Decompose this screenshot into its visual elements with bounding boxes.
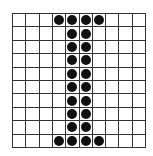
grid-cell [80,14,93,27]
grid-cell [119,27,132,40]
grid-cell [53,81,66,94]
grid-cell [53,135,66,148]
dot-grid [12,13,146,148]
grid-cell [119,121,132,134]
filled-dot [81,29,91,39]
grid-cell [80,81,93,94]
grid-cell [133,94,146,107]
grid-cell [80,108,93,121]
grid-cell [93,108,106,121]
filled-dot [94,136,104,146]
grid-cell [40,14,53,27]
filled-dot [94,15,104,25]
grid-cell [66,27,79,40]
filled-dot [67,15,77,25]
grid-cell [40,68,53,81]
filled-dot [81,55,91,65]
grid-cell [66,41,79,54]
filled-dot [67,136,77,146]
grid-cell [13,54,26,67]
grid-cell [133,14,146,27]
grid-cell [133,54,146,67]
grid-cell [93,81,106,94]
grid-cell [93,27,106,40]
grid-cell [106,14,119,27]
grid-cell [66,54,79,67]
grid-cell [119,135,132,148]
grid-cell [119,94,132,107]
grid-cell [106,94,119,107]
grid-cell [80,135,93,148]
grid-cell [66,135,79,148]
grid-cell [133,81,146,94]
grid-cell [106,121,119,134]
grid-cell [13,14,26,27]
grid-cell [119,68,132,81]
grid-cell [106,27,119,40]
grid-cell [119,81,132,94]
grid-cell [93,94,106,107]
filled-dot [67,122,77,132]
grid-cell [106,135,119,148]
grid-cell [93,68,106,81]
grid-cell [80,68,93,81]
filled-dot [67,109,77,119]
grid-cell [93,135,106,148]
grid-cell [80,54,93,67]
grid-cell [40,108,53,121]
grid-cell [133,27,146,40]
grid-cell [40,135,53,148]
grid-cell [53,41,66,54]
filled-dot [67,55,77,65]
grid-cell [93,41,106,54]
grid-cell [93,54,106,67]
grid-cell [26,94,39,107]
grid-cell [106,108,119,121]
filled-dot [81,96,91,106]
grid-cell [40,121,53,134]
filled-dot [67,42,77,52]
grid-cell [133,121,146,134]
grid-cell [119,108,132,121]
grid-cell [26,81,39,94]
filled-dot [67,82,77,92]
grid-cell [133,135,146,148]
filled-dot [54,15,64,25]
grid-cell [53,54,66,67]
grid-cell [53,27,66,40]
grid-cell [93,121,106,134]
grid-cell [26,108,39,121]
grid-cell [133,41,146,54]
filled-dot [81,122,91,132]
grid-cell [40,54,53,67]
grid-cell [13,27,26,40]
grid-cell [119,54,132,67]
grid-cell [119,41,132,54]
grid-cell [106,54,119,67]
grid-cell [53,14,66,27]
filled-dot [81,136,91,146]
grid-cell [26,41,39,54]
filled-dot [67,69,77,79]
filled-dot [67,29,77,39]
grid-cell [53,68,66,81]
filled-dot [81,15,91,25]
grid-cell [66,121,79,134]
grid-cell [13,135,26,148]
grid-cell [133,68,146,81]
grid-cell [66,94,79,107]
grid-cell [66,108,79,121]
grid-cell [133,108,146,121]
grid-cell [53,121,66,134]
grid-cell [40,27,53,40]
grid-cell [80,94,93,107]
grid-cell [26,135,39,148]
filled-dot [81,82,91,92]
grid-cell [53,108,66,121]
grid-cell [93,14,106,27]
grid-cell [13,68,26,81]
grid-cell [66,14,79,27]
grid-cell [26,54,39,67]
grid-cell [26,68,39,81]
grid-cell [106,68,119,81]
